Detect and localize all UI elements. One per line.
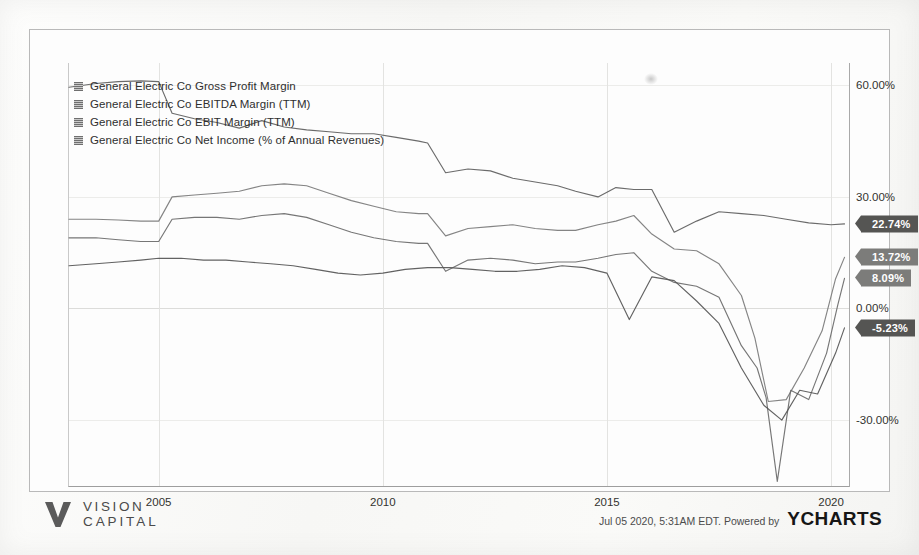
chart-legend: General Electric Co Gross Profit Margin …: [74, 78, 384, 150]
value-flag-ebit-margin: 8.09%: [861, 270, 911, 287]
chart-credit: Jul 05 2020, 5:31AM EDT. Powered by YCHA…: [599, 508, 882, 530]
legend-item-gross-profit-margin[interactable]: General Electric Co Gross Profit Margin: [74, 78, 384, 94]
credit-timestamp: Jul 05 2020, 5:31AM EDT. Powered by: [599, 515, 779, 527]
y-axis-tick-30: 30.00%: [856, 191, 895, 203]
logo-line-1: VISION: [83, 499, 159, 514]
value-flag-gross-profit-margin: 22.74%: [861, 215, 918, 232]
legend-swatch-icon: [74, 118, 83, 127]
legend-item-ebit-margin[interactable]: General Electric Co EBIT Margin (TTM): [74, 114, 384, 130]
legend-label: General Electric Co Gross Profit Margin: [90, 80, 296, 92]
y-axis-tick-60: 60.00%: [856, 79, 895, 91]
legend-swatch-icon: [74, 136, 83, 145]
screenshot-page: General Electric Co Gross Profit Margin …: [0, 0, 919, 555]
value-flag-ebitda-margin: 13.72%: [861, 249, 918, 266]
vision-v-icon: [43, 499, 73, 529]
legend-swatch-icon: [74, 100, 83, 109]
chart-footer: VISION CAPITAL Jul 05 2020, 5:31AM EDT. …: [29, 494, 890, 538]
ycharts-wordmark: YCHARTS: [787, 508, 882, 530]
y-axis-tick-0: 0.00%: [856, 302, 889, 314]
vision-capital-logo: VISION CAPITAL: [43, 499, 159, 529]
logo-wordmark: VISION CAPITAL: [83, 499, 159, 529]
legend-label: General Electric Co EBITDA Margin (TTM): [90, 98, 311, 110]
legend-label: General Electric Co EBIT Margin (TTM): [90, 116, 295, 128]
logo-line-2: CAPITAL: [83, 514, 159, 529]
value-flag-net-income: -5.23%: [861, 319, 915, 336]
chart-card: General Electric Co Gross Profit Margin …: [29, 29, 890, 492]
legend-item-ebitda-margin[interactable]: General Electric Co EBITDA Margin (TTM): [74, 96, 384, 112]
y-axis-tick-neg30: -30.00%: [856, 414, 899, 426]
legend-swatch-icon: [74, 82, 83, 91]
legend-item-net-income[interactable]: General Electric Co Net Income (% of Ann…: [74, 132, 384, 148]
legend-label: General Electric Co Net Income (% of Ann…: [90, 134, 384, 146]
